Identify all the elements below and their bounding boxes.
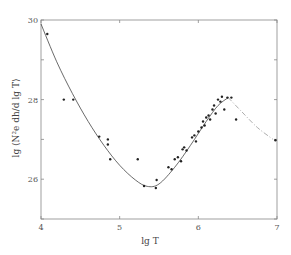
data-point	[72, 98, 74, 100]
data-point	[155, 179, 157, 181]
data-points	[46, 33, 277, 189]
x-tick-label: 5	[117, 223, 122, 232]
tick-labels: 4567262830	[28, 16, 280, 232]
data-point	[213, 104, 215, 106]
y-tick-label: 26	[28, 175, 38, 184]
plot-frame	[41, 20, 277, 219]
data-point	[183, 146, 185, 148]
extrapolation-curve	[228, 98, 273, 140]
axis-ticks	[41, 20, 277, 219]
data-point	[191, 136, 193, 138]
data-point	[107, 138, 109, 140]
data-point	[137, 158, 139, 160]
data-point	[221, 96, 223, 98]
data-point	[200, 126, 202, 128]
y-axis-title: lg ⟨N²e dh/d lg T⟩	[11, 79, 21, 158]
data-point	[193, 134, 195, 136]
y-tick-label: 28	[28, 96, 38, 105]
data-point	[143, 185, 145, 187]
data-point	[205, 116, 207, 118]
data-point	[211, 108, 213, 110]
data-point	[181, 148, 183, 150]
data-point	[197, 130, 199, 132]
data-point	[98, 135, 100, 137]
x-tick-label: 4	[38, 223, 43, 232]
data-point	[223, 108, 225, 110]
data-point	[63, 98, 65, 100]
chart: 4567262830 lg T lg ⟨N²e dh/d lg T⟩	[0, 0, 291, 255]
fit-curve	[41, 24, 228, 187]
y-tick-label: 30	[28, 16, 38, 25]
x-tick-label: 7	[274, 223, 279, 232]
data-point	[203, 124, 205, 126]
data-point	[226, 96, 228, 98]
data-point	[107, 143, 109, 145]
data-point	[155, 187, 157, 189]
x-tick-label: 6	[196, 223, 201, 232]
x-axis-title: lg T	[141, 236, 159, 246]
data-point	[274, 139, 276, 141]
data-point	[207, 114, 209, 116]
data-point	[217, 98, 219, 100]
data-point	[235, 118, 237, 120]
data-point	[170, 168, 172, 170]
data-point	[46, 33, 48, 35]
data-point	[214, 112, 216, 114]
data-point	[219, 100, 221, 102]
data-point	[195, 140, 197, 142]
data-point	[167, 166, 169, 168]
data-point	[185, 149, 187, 151]
data-point	[230, 96, 232, 98]
data-point	[209, 118, 211, 120]
data-point	[177, 156, 179, 158]
data-point	[202, 120, 204, 122]
data-point	[180, 160, 182, 162]
data-point	[109, 158, 111, 160]
data-point	[174, 158, 176, 160]
